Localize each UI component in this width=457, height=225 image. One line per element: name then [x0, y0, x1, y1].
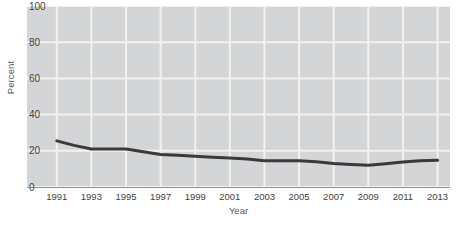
- plot-area: [27, 6, 450, 187]
- x-axis-line: [27, 187, 450, 188]
- series-line-percent: [57, 141, 438, 165]
- y-axis-tick-label: 100: [29, 1, 59, 12]
- y-axis-tick-label: 20: [29, 145, 59, 156]
- y-axis-tick-label: 60: [29, 73, 59, 84]
- plot-svg: [27, 6, 450, 187]
- x-axis-tick-label: 2013: [418, 191, 457, 202]
- line-chart: Percent 020406080100 1991199319951997199…: [0, 0, 457, 225]
- x-axis-title: Year: [27, 205, 450, 216]
- y-axis-tick-label: 40: [29, 109, 59, 120]
- y-axis-title: Percent: [5, 48, 16, 108]
- y-axis-tick-label: 80: [29, 37, 59, 48]
